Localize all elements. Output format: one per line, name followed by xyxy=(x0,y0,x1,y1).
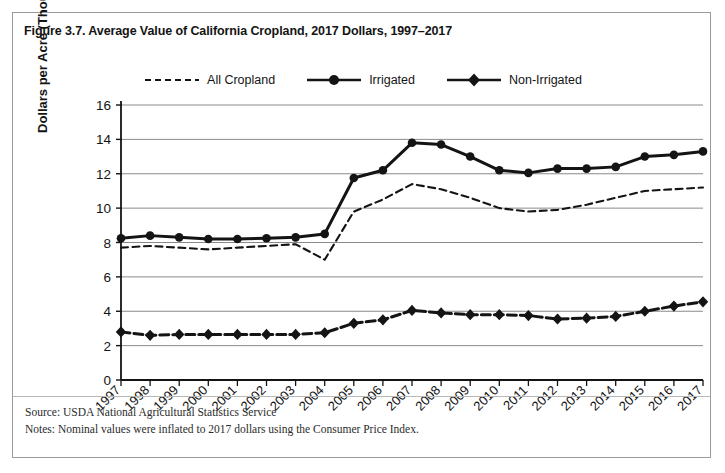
y-axis-tick-label: 16 xyxy=(96,98,111,113)
data-point-marker xyxy=(494,309,504,320)
data-point-marker xyxy=(203,329,213,340)
data-point-marker xyxy=(174,329,184,340)
line-chart: 0246810121416199719981999200020012002200… xyxy=(13,91,712,411)
chart-legend: All Cropland Irrigated Non-Irrigated xyxy=(13,69,712,91)
data-point-marker xyxy=(552,313,562,324)
data-point-marker xyxy=(320,230,329,239)
data-point-marker xyxy=(670,151,679,160)
data-point-marker xyxy=(465,309,475,320)
y-axis-tick-label: 12 xyxy=(96,167,111,182)
data-point-marker xyxy=(408,139,417,148)
data-point-marker xyxy=(145,330,155,341)
y-axis-tick-label: 10 xyxy=(96,201,111,216)
data-point-marker xyxy=(117,234,126,243)
data-point-marker xyxy=(350,174,359,183)
data-point-marker xyxy=(611,311,621,322)
data-point-marker xyxy=(669,300,679,311)
data-point-marker xyxy=(175,233,184,242)
legend-label-irrigated: Irrigated xyxy=(369,73,415,87)
data-point-marker xyxy=(436,307,446,318)
legend-item-all-cropland: All Cropland xyxy=(143,73,275,87)
chart-plot-area: 0246810121416199719981999200020012002200… xyxy=(13,91,712,411)
data-point-marker xyxy=(524,169,533,178)
data-point-marker xyxy=(349,318,359,329)
legend-swatch-diamond xyxy=(445,73,503,87)
figure-title: Figure 3.7. Average Value of California … xyxy=(24,24,452,38)
figure-footnotes: Source: USDA National Agricultural Stati… xyxy=(13,396,710,457)
data-point-marker xyxy=(146,231,155,240)
data-point-marker xyxy=(553,164,562,173)
methods-note: Notes: Nominal values were inflated to 2… xyxy=(25,423,710,435)
y-axis-tick-label: 8 xyxy=(103,236,111,251)
data-point-marker xyxy=(233,235,242,244)
series-line-irrigated xyxy=(121,143,703,239)
data-point-marker xyxy=(437,140,446,149)
data-point-marker xyxy=(261,329,271,340)
data-point-marker xyxy=(262,234,271,243)
data-point-marker xyxy=(291,233,300,242)
data-point-marker xyxy=(116,326,126,337)
legend-swatch-dashed xyxy=(143,73,201,87)
source-note: Source: USDA National Agricultural Stati… xyxy=(25,406,710,418)
legend-label-non-irrigated: Non-Irrigated xyxy=(509,73,582,87)
y-axis-tick-label: 6 xyxy=(103,270,111,285)
data-point-marker xyxy=(699,147,708,156)
legend-item-irrigated: Irrigated xyxy=(305,73,415,87)
data-point-marker xyxy=(611,163,620,172)
data-point-marker xyxy=(582,164,591,173)
data-point-marker xyxy=(466,152,475,161)
legend-swatch-circle xyxy=(305,73,363,87)
data-point-marker xyxy=(290,329,300,340)
y-axis-tick-label: 4 xyxy=(103,304,111,319)
series-line-all-cropland xyxy=(121,184,703,260)
data-point-marker xyxy=(320,327,330,338)
figure-frame: Figure 3.7. Average Value of California … xyxy=(12,12,711,458)
data-point-marker xyxy=(232,329,242,340)
data-point-marker xyxy=(407,305,417,316)
legend-label-all-cropland: All Cropland xyxy=(207,73,275,87)
legend-item-non-irrigated: Non-Irrigated xyxy=(445,73,582,87)
data-point-marker xyxy=(641,152,650,161)
data-point-marker xyxy=(379,166,388,175)
y-axis-tick-label: 2 xyxy=(103,339,111,354)
data-point-marker xyxy=(581,313,591,324)
data-point-marker xyxy=(378,314,388,325)
data-point-marker xyxy=(640,306,650,317)
data-point-marker xyxy=(495,166,504,175)
y-axis-tick-label: 14 xyxy=(96,132,112,147)
data-point-marker xyxy=(698,296,708,307)
data-point-marker xyxy=(204,235,213,244)
